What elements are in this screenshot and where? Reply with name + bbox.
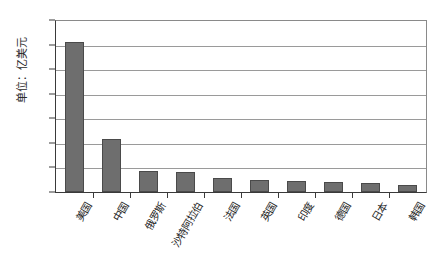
x-tick-mark [241, 193, 242, 198]
bar [139, 171, 158, 192]
x-tick-label: 俄罗斯 [141, 199, 169, 232]
x-tick-mark [389, 193, 390, 198]
x-tick-mark [352, 193, 353, 198]
x-tick-label: 英国 [257, 199, 280, 224]
bar [65, 42, 84, 192]
x-tick-label: 日本 [368, 199, 391, 224]
x-tick-label: 德国 [331, 199, 354, 224]
y-tick-mark [49, 44, 55, 45]
y-axis-title: 单位：亿美元 [13, 5, 29, 135]
bar [102, 139, 121, 192]
x-tick-label: 美国 [72, 199, 95, 224]
y-tick-mark [49, 69, 55, 70]
bar [287, 181, 306, 192]
bar [361, 183, 380, 192]
y-tick-mark [49, 20, 55, 21]
x-tick-mark [204, 193, 205, 198]
x-tick-mark [93, 193, 94, 198]
x-tick-label: 印度 [294, 199, 317, 224]
x-tick-label: 法国 [220, 199, 243, 224]
y-tick-mark [49, 167, 55, 168]
bar [324, 182, 343, 192]
y-tick-mark [49, 118, 55, 119]
x-tick-mark [130, 193, 131, 198]
y-tick-mark [49, 93, 55, 94]
bar [250, 180, 269, 192]
bar [176, 172, 195, 192]
x-tick-label: 沙特阿拉伯 [168, 199, 206, 250]
x-tick-mark [167, 193, 168, 198]
bar [213, 178, 232, 192]
bar-series [56, 20, 426, 192]
y-tick-mark [49, 192, 55, 193]
x-tick-label: 中国 [109, 199, 132, 224]
x-tick-label: 韩国 [405, 199, 428, 224]
x-tick-mark [278, 193, 279, 198]
bar [398, 185, 417, 192]
y-tick-mark [49, 142, 55, 143]
bar-chart: 单位：亿美元 01000200030004000500060007000 美国中… [0, 0, 439, 260]
x-tick-mark [315, 193, 316, 198]
